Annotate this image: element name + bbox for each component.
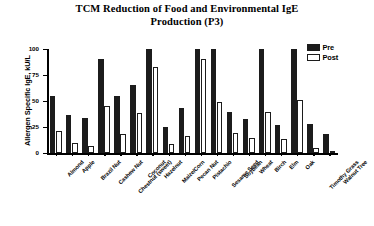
x-axis-tick: [56, 153, 57, 156]
x-axis-tick: [265, 153, 266, 156]
bar-post: [297, 100, 302, 153]
x-axis-tick: [281, 153, 282, 156]
bar-post: [217, 102, 222, 153]
bar-group: [49, 49, 65, 153]
bar-group: [161, 49, 177, 153]
legend-label-pre: Pre: [323, 43, 335, 52]
bar-pre: [323, 134, 328, 153]
x-axis-category-label: Elm: [288, 159, 299, 170]
bar-pre: [227, 112, 232, 153]
bar-pre: [307, 124, 312, 153]
bar-post: [120, 134, 125, 153]
x-axis-tick: [120, 153, 121, 156]
bar-group: [193, 49, 209, 153]
bar-group: [209, 49, 225, 153]
bar-group: [113, 49, 129, 153]
plot-area: 0255075100 AlmondAppleBrazil NutCashew N…: [47, 49, 338, 153]
bar-post: [265, 112, 270, 153]
bar-post: [153, 67, 158, 153]
bar-pre: [66, 115, 71, 153]
bar-group: [65, 49, 81, 153]
bar-pre: [195, 49, 200, 153]
bar-pre: [163, 127, 168, 153]
y-axis-tick: 25: [43, 127, 47, 128]
chart-title-line-1: TCM Reduction of Food and Environmental …: [76, 3, 299, 14]
chart-title: TCM Reduction of Food and Environmental …: [30, 2, 344, 28]
x-axis-tick: [329, 153, 330, 156]
y-axis-tick-label: 100: [29, 45, 39, 52]
bar-pre: [114, 96, 119, 153]
x-axis-tick: [104, 153, 105, 156]
bar-group: [322, 49, 338, 153]
x-axis-category-label: Brazil Nut: [99, 159, 121, 181]
bar-group: [258, 49, 274, 153]
bars-layer: [49, 49, 338, 153]
x-axis-category-label: Oak: [304, 159, 316, 171]
bar-group: [81, 49, 97, 153]
bar-post: [185, 136, 190, 153]
bar-group: [177, 49, 193, 153]
bar-group: [242, 49, 258, 153]
bar-group: [145, 49, 161, 153]
bar-group: [97, 49, 113, 153]
bar-pre: [275, 125, 280, 153]
x-axis-tick: [233, 153, 234, 156]
x-axis-tick: [152, 153, 153, 156]
bar-pre: [130, 85, 135, 153]
x-axis-tick: [169, 153, 170, 156]
y-axis-tick: 0: [43, 153, 47, 154]
x-axis-tick: [201, 153, 202, 156]
bar-post: [169, 144, 174, 153]
legend-label-post: Post: [323, 53, 339, 62]
x-axis-tick: [249, 153, 250, 156]
y-axis-tick-label: 50: [32, 97, 39, 104]
bar-pre: [179, 108, 184, 153]
x-axis-tick: [72, 153, 73, 156]
chart-figure: TCM Reduction of Food and Environmental …: [0, 0, 374, 226]
bar-pre: [98, 59, 103, 153]
x-axis-tick: [313, 153, 314, 156]
bar-post: [233, 133, 238, 153]
bar-post: [72, 143, 77, 153]
x-axis-category-label: Birch: [273, 159, 287, 173]
bar-group: [274, 49, 290, 153]
legend-item-pre: Pre: [307, 43, 371, 52]
legend-swatch-pre-icon: [307, 44, 320, 51]
x-axis-tick: [185, 153, 186, 156]
x-axis-tick: [88, 153, 89, 156]
bar-pre: [243, 119, 248, 153]
y-axis-tick-label: 0: [36, 149, 39, 156]
bar-pre: [146, 49, 151, 153]
bar-post: [249, 138, 254, 153]
bar-group: [306, 49, 322, 153]
chart-legend: Pre Post: [307, 43, 371, 63]
chart-title-line-2: Production (P3): [30, 15, 344, 28]
y-axis-tick: 75: [43, 75, 47, 76]
x-axis-line: [47, 153, 338, 155]
bar-pre: [259, 49, 264, 153]
bar-pre: [82, 118, 87, 153]
bar-pre: [50, 96, 55, 153]
y-axis-tick: 50: [43, 101, 47, 102]
x-axis-tick: [136, 153, 137, 156]
bar-pre: [291, 49, 296, 153]
bar-post: [88, 146, 93, 153]
bar-post: [137, 113, 142, 153]
bar-group: [225, 49, 241, 153]
x-axis-tick: [297, 153, 298, 156]
bar-post: [281, 139, 286, 153]
bar-post: [56, 131, 61, 153]
bar-post: [104, 106, 109, 153]
bar-post: [201, 59, 206, 153]
x-axis-tick: [217, 153, 218, 156]
bar-pre: [211, 49, 216, 153]
y-axis-tick-label: 75: [32, 71, 39, 78]
y-axis-tick: 100: [43, 49, 47, 50]
y-axis-tick-label: 25: [32, 123, 39, 130]
legend-swatch-post-icon: [307, 54, 320, 61]
legend-item-post: Post: [307, 53, 371, 62]
bar-group: [290, 49, 306, 153]
bar-group: [129, 49, 145, 153]
